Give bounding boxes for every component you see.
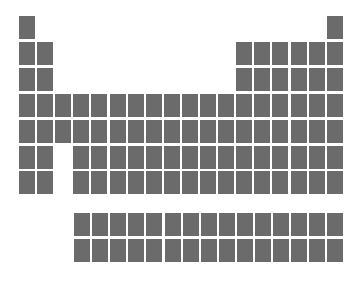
f-block-cell-r2-c4 bbox=[128, 239, 144, 262]
f-block-cell-r1-c3 bbox=[110, 213, 126, 236]
f-block-cell-r1-c14 bbox=[309, 213, 325, 236]
f-block-cell-r2-c15 bbox=[327, 239, 343, 262]
periodic-table-f-block bbox=[0, 0, 364, 285]
f-block-cell-r1-c11 bbox=[255, 213, 271, 236]
f-block-cell-r2-c9 bbox=[219, 239, 235, 262]
f-block-cell-r1-c7 bbox=[183, 213, 199, 236]
f-block-cell-r1-c10 bbox=[237, 213, 253, 236]
f-block-cell-r2-c13 bbox=[291, 239, 307, 262]
f-block-cell-r1-c13 bbox=[291, 213, 307, 236]
f-block-cell-r1-c1 bbox=[74, 213, 90, 236]
f-block-cell-r1-c8 bbox=[201, 213, 217, 236]
f-block-cell-r1-c6 bbox=[165, 213, 181, 236]
f-block-cell-r2-c8 bbox=[201, 239, 217, 262]
f-block-cell-r2-c11 bbox=[255, 239, 271, 262]
f-block-cell-r2-c5 bbox=[146, 239, 162, 262]
f-block-cell-r2-c2 bbox=[92, 239, 108, 262]
f-block-cell-r1-c5 bbox=[146, 213, 162, 236]
f-block-cell-r2-c3 bbox=[110, 239, 126, 262]
f-block-cell-r1-c12 bbox=[273, 213, 289, 236]
periodic-table-figure bbox=[0, 0, 364, 285]
f-block-cell-r1-c2 bbox=[92, 213, 108, 236]
f-block-cell-r2-c14 bbox=[309, 239, 325, 262]
f-block-cell-r2-c10 bbox=[237, 239, 253, 262]
f-block-cell-r1-c9 bbox=[219, 213, 235, 236]
f-block-cell-r2-c1 bbox=[74, 239, 90, 262]
f-block-cell-r1-c15 bbox=[327, 213, 343, 236]
f-block-cell-r2-c7 bbox=[183, 239, 199, 262]
f-block-cell-r2-c6 bbox=[165, 239, 181, 262]
f-block-cell-r2-c12 bbox=[273, 239, 289, 262]
f-block-cell-r1-c4 bbox=[128, 213, 144, 236]
